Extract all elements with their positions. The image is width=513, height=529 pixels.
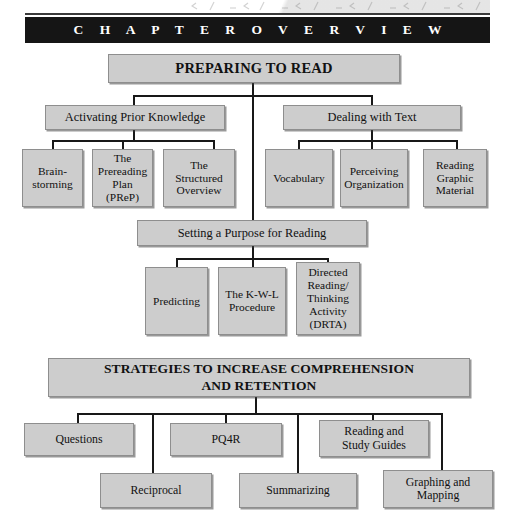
connector-branch1-split bbox=[52, 140, 215, 142]
node-setting-a-purpose: Setting a Purpose for Reading bbox=[137, 220, 367, 246]
node-perceiving-organization: Perceiving Organization bbox=[340, 149, 408, 207]
node-graphing-and-mapping: Graphing and Mapping bbox=[383, 470, 493, 508]
node-strategies-header: STRATEGIES TO INCREASE COMPREHENSION AND… bbox=[48, 358, 470, 397]
connector-branch2-split bbox=[298, 140, 458, 142]
node-reading-and-study-guides: Reading and Study Guides bbox=[319, 420, 429, 457]
node-reciprocal: Reciprocal bbox=[100, 473, 212, 508]
connector-s-reciprocal bbox=[152, 413, 154, 479]
node-reading-graphic-material: Reading Graphic Material bbox=[423, 149, 487, 207]
node-drta: Directed Reading/ Thinking Activity (DRT… bbox=[296, 262, 360, 335]
node-structured-overview: The Structured Overview bbox=[163, 149, 235, 207]
connector-s-summarizing bbox=[297, 413, 299, 479]
top-decoration-marks bbox=[190, 1, 490, 12]
connector-strategies-bus bbox=[77, 413, 443, 415]
node-vocabulary: Vocabulary bbox=[265, 149, 333, 207]
node-kwl-procedure: The K-W-L Procedure bbox=[218, 267, 286, 335]
node-questions: Questions bbox=[24, 423, 134, 456]
chapter-overview-page: C H A P T E R O V E R V I E W PREPARING … bbox=[0, 0, 513, 529]
node-brainstorming: Brain- storming bbox=[22, 149, 83, 207]
node-pq4r: PQ4R bbox=[170, 423, 282, 456]
node-prereading-plan: The Prereading Plan (PReP) bbox=[92, 149, 153, 207]
node-predicting: Predicting bbox=[145, 267, 208, 335]
node-dealing-with-text: Dealing with Text bbox=[283, 105, 461, 130]
connector-center-trunk bbox=[252, 95, 254, 220]
chapter-overview-banner: C H A P T E R O V E R V I E W bbox=[25, 17, 490, 43]
node-preparing-to-read: PREPARING TO READ bbox=[108, 54, 400, 83]
node-summarizing: Summarizing bbox=[239, 473, 357, 508]
header-rule bbox=[25, 13, 490, 15]
node-activating-prior-knowledge: Activating Prior Knowledge bbox=[45, 105, 225, 130]
